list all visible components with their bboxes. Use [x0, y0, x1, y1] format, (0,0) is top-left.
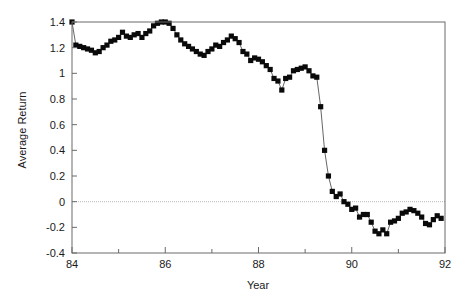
- y-tick-label: -0.4: [46, 247, 65, 259]
- data-point-marker: [147, 28, 152, 33]
- data-point-marker: [275, 78, 280, 83]
- data-point-marker: [236, 40, 241, 45]
- data-point-marker: [330, 189, 335, 194]
- data-point-marker: [427, 222, 432, 227]
- y-tick-label: -0.2: [46, 221, 65, 233]
- y-tick-label: 0.2: [50, 170, 65, 182]
- y-tick-label: 0: [59, 196, 65, 208]
- y-tick-label: 1.2: [50, 42, 65, 54]
- data-point-marker: [279, 87, 284, 92]
- y-axis-title: Average Return: [16, 92, 28, 169]
- data-point-marker: [287, 75, 292, 80]
- data-point-marker: [337, 191, 342, 196]
- data-point-marker: [322, 148, 327, 153]
- data-point-marker: [353, 205, 358, 210]
- data-point-marker: [318, 104, 323, 109]
- x-tick-label: 90: [346, 258, 358, 270]
- data-point-marker: [116, 35, 121, 40]
- line-chart: -0.4-0.200.20.40.60.811.21.48486889092 Y…: [0, 0, 466, 298]
- x-tick-label: 86: [159, 258, 171, 270]
- chart-figure: -0.4-0.200.20.40.60.811.21.48486889092 Y…: [0, 0, 466, 298]
- data-point-marker: [396, 216, 401, 221]
- data-point-marker: [384, 231, 389, 236]
- data-point-marker: [326, 173, 331, 178]
- data-point-marker: [170, 26, 175, 31]
- x-tick-label: 92: [439, 258, 451, 270]
- data-point-marker: [306, 68, 311, 73]
- y-tick-label: 0.4: [50, 144, 65, 156]
- data-point-marker: [268, 67, 273, 72]
- data-point-marker: [369, 220, 374, 225]
- y-tick-label: 1.4: [50, 16, 65, 28]
- data-point-marker: [314, 75, 319, 80]
- data-point-marker: [167, 21, 172, 26]
- data-point-marker: [419, 214, 424, 219]
- data-point-marker: [244, 51, 249, 56]
- y-tick-label: 0.8: [50, 93, 65, 105]
- data-point-marker: [439, 216, 444, 221]
- series-average-return: [69, 19, 443, 236]
- y-tick-label: 0.6: [50, 119, 65, 131]
- data-point-marker: [365, 212, 370, 217]
- data-point-marker: [174, 32, 179, 37]
- y-tick-label: 1: [59, 67, 65, 79]
- x-tick-label: 84: [66, 258, 78, 270]
- data-point-marker: [345, 202, 350, 207]
- x-tick-label: 88: [252, 258, 264, 270]
- x-axis-title: Year: [247, 279, 270, 291]
